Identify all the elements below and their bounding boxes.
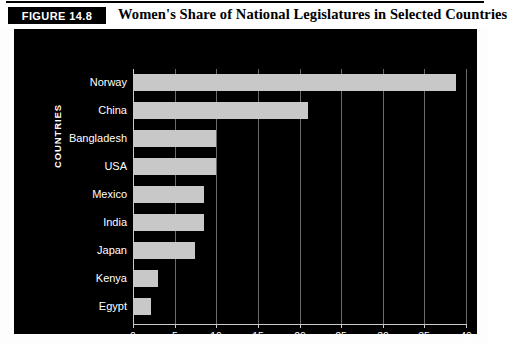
bar [133,242,195,259]
tick-mark [258,324,259,328]
bar [133,130,216,147]
bar [133,186,204,203]
tick-mark [424,324,425,328]
category-label: Norway [22,74,127,91]
tick-mark [341,324,342,328]
bar [133,74,456,91]
x-tick-label: 20 [280,330,320,342]
category-label: Mexico [22,186,127,203]
gridline [383,69,384,324]
bar [133,158,216,175]
chart-panel: COUNTRIES NorwayChinaBangladeshUSAMexico… [14,29,477,334]
category-label: India [22,214,127,231]
tick-mark [133,324,134,328]
x-tick-label: 15 [238,330,278,342]
x-tick-label: 40 [446,330,486,342]
bar [133,298,151,315]
figure-header: FIGURE 14.8 Women's Share of National Le… [0,0,488,28]
tick-mark [466,324,467,328]
tick-mark [216,324,217,328]
tick-mark [300,324,301,328]
gridline [341,69,342,324]
bar [133,270,158,287]
x-tick-label: 5 [155,330,195,342]
category-label: Egypt [22,298,127,315]
category-label: Japan [22,242,127,259]
x-tick-label: 35 [404,330,444,342]
bar [133,214,204,231]
category-label: Kenya [22,270,127,287]
bar [133,102,308,119]
header-rule [6,1,484,3]
gridline [424,69,425,324]
x-tick-label: 30 [363,330,403,342]
gridline [466,69,467,324]
x-tick-label: 25 [321,330,361,342]
figure-title: Women's Share of National Legislatures i… [118,6,507,23]
tick-mark [383,324,384,328]
figure-number-badge: FIGURE 14.8 [8,7,106,24]
tick-mark [175,324,176,328]
x-tick-label: 10 [196,330,236,342]
x-tick-label: 0 [113,330,153,342]
category-label: Bangladesh [22,130,127,147]
category-label: USA [22,158,127,175]
category-label: China [22,102,127,119]
